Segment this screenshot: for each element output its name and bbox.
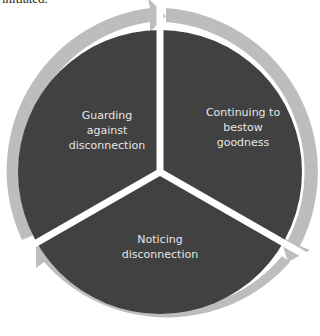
stage-label-noticing: Noticing disconnection xyxy=(105,232,215,262)
stage-label-guarding: Guarding against disconnection xyxy=(52,108,162,153)
stage-label-continuing: Continuing to bestow goodness xyxy=(188,105,298,150)
cycle-diagram xyxy=(0,0,320,336)
